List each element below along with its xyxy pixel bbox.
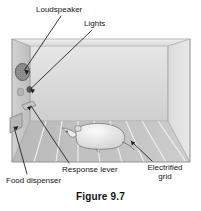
light-indicator-pale-icon (17, 88, 24, 96)
label-electrified-grid-line2: grid (158, 172, 171, 181)
chamber-top-rim (12, 39, 190, 46)
rat-ear (75, 126, 81, 132)
chamber-back-wall (30, 46, 168, 121)
figure-operant-conditioning-chamber: Loudspeaker Lights Response lever Food d… (0, 0, 201, 211)
rat-eye (66, 131, 68, 133)
label-electrified-grid: Electrified grid (144, 163, 186, 181)
label-electrified-grid-line1: Electrified (147, 163, 182, 172)
label-response-lever: Response lever (62, 165, 118, 174)
rat-body (76, 123, 125, 149)
label-food-dispenser: Food dispenser (6, 176, 61, 185)
label-lights: Lights (84, 19, 105, 28)
label-loudspeaker: Loudspeaker (36, 5, 82, 14)
figure-caption: Figure 9.7 (0, 191, 201, 202)
